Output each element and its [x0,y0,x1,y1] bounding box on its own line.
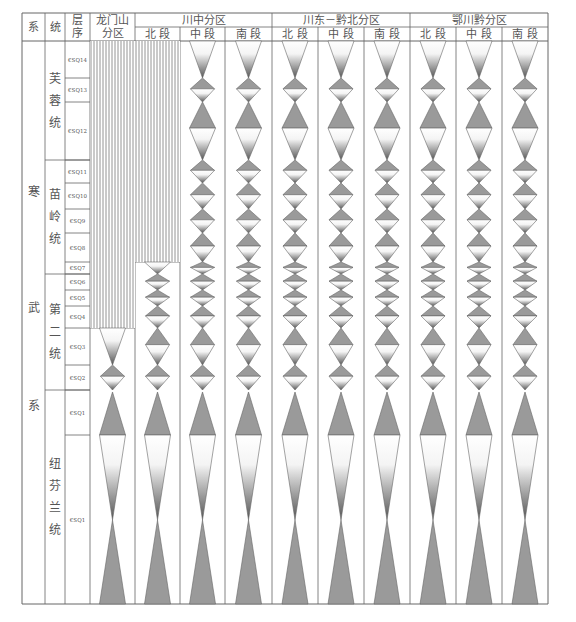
series-name-char: 兰 [49,501,61,515]
sequence-label: €SQ9 [69,218,86,224]
series-name-char: 二 [49,325,61,339]
system-name-char: 寒 [28,184,40,199]
header-segment: 中 段 [328,27,354,41]
header-series: 统 [50,21,61,34]
sequence-label: €SQ13 [67,87,87,93]
series-name-char: 蓉 [49,94,61,108]
sequence-label: €SQ4 [69,314,86,320]
header-segment: 北 段 [420,27,446,41]
header-sequence: 序 [72,26,83,40]
header-segment: 南 段 [236,27,262,41]
header-segment: 北 段 [145,27,171,41]
sequence-label: €SQ2 [69,375,85,381]
sequence-stratigraphy-chart: 系统层序龙门山分区川中分区北 段中 段南 段川东－黔北分区北 段中 段南 段鄂川… [0,0,576,622]
header-segment: 北 段 [282,27,308,41]
series-name-char: 纽 [49,457,61,471]
sequence-label: €SQ12 [67,128,87,134]
header-system: 系 [28,21,39,34]
series-name-char: 芙 [49,72,61,86]
header-sequence: 层 [72,14,83,27]
sequence-label: €SQ5 [69,295,86,301]
hatch-chuanzhong_north [135,41,180,262]
series-name-char: 统 [49,232,61,246]
series-name-char: 统 [49,347,61,361]
series-name-char: 芬 [49,479,61,493]
header-region: 川东－黔北分区 [303,13,380,27]
series-name-char: 统 [49,523,61,537]
series-name-char: 第 [49,303,61,317]
sequence-label: €SQ14 [67,57,87,63]
series-name-char: 统 [49,116,61,130]
hatched-areas [90,41,180,328]
sequence-label: €SQ8 [69,245,86,251]
header-region: 鄂川黔分区 [452,13,507,27]
header-region: 川中分区 [182,14,226,27]
header-segment: 中 段 [190,27,216,41]
series-name-char: 岭 [49,210,61,224]
system-name-char: 武 [28,301,40,315]
system-name-char: 系 [28,399,40,413]
sequence-label: €SQ1 [69,517,85,523]
hatch-longmenshan [90,41,135,328]
header-longmenshan: 龙门山 [96,13,129,27]
sequence-label: €SQ6 [69,279,86,285]
header-segment: 南 段 [512,27,538,41]
sequence-label: €SQ7 [69,265,86,271]
sequence-label: €SQ10 [67,193,87,199]
sequence-label: €SQ11 [67,169,87,175]
header-segment: 南 段 [374,27,400,41]
series-name-char: 苗 [49,188,61,202]
sequence-label: €SQ1 [69,410,85,416]
sequence-label: €SQ3 [69,344,86,350]
header-longmenshan: 分区 [102,27,124,40]
header-segment: 中 段 [466,27,492,41]
